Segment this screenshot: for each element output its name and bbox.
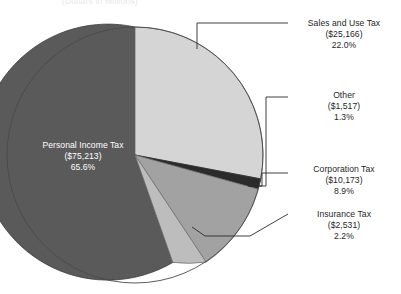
pie-label-name: Other xyxy=(291,90,397,101)
pie-label-name: Insurance Tax xyxy=(291,209,397,220)
pie-label-value: ($2,531) xyxy=(291,220,397,231)
pie-label-name: Personal Income Tax xyxy=(24,140,142,151)
leader-line-sales-and-use-tax xyxy=(197,23,288,49)
pie-label-percent: 65.6% xyxy=(24,162,142,173)
pie-label-value: ($1,517) xyxy=(291,101,397,112)
pie-label-percent: 22.0% xyxy=(291,40,397,51)
pie-label-value: ($10,173) xyxy=(291,175,397,186)
pie-slice-sales-and-use-tax[interactable] xyxy=(135,27,263,179)
pie-label-corporation-tax: Corporation Tax ($10,173) 8.9% xyxy=(291,164,397,198)
pie-label-value: ($25,166) xyxy=(291,29,397,40)
pie-label-sales-and-use-tax: Sales and Use Tax ($25,166) 22.0% xyxy=(291,18,397,52)
pie-label-percent: 1.3% xyxy=(291,112,397,123)
pie-label-insurance-tax: Insurance Tax ($2,531) 2.2% xyxy=(291,209,397,243)
pie-label-value: ($75,213) xyxy=(24,151,142,162)
pie-label-name: Corporation Tax xyxy=(291,164,397,175)
pie-chart-figure: (Dollars in Millions) Sales and Use Tax xyxy=(0,0,401,294)
pie-label-percent: 8.9% xyxy=(291,186,397,197)
pie-label-other: Other ($1,517) 1.3% xyxy=(291,90,397,124)
pie-label-personal-income-tax: Personal Income Tax ($75,213) 65.6% xyxy=(24,140,142,174)
pie-label-percent: 2.2% xyxy=(291,231,397,242)
pie-label-name: Sales and Use Tax xyxy=(291,18,397,29)
